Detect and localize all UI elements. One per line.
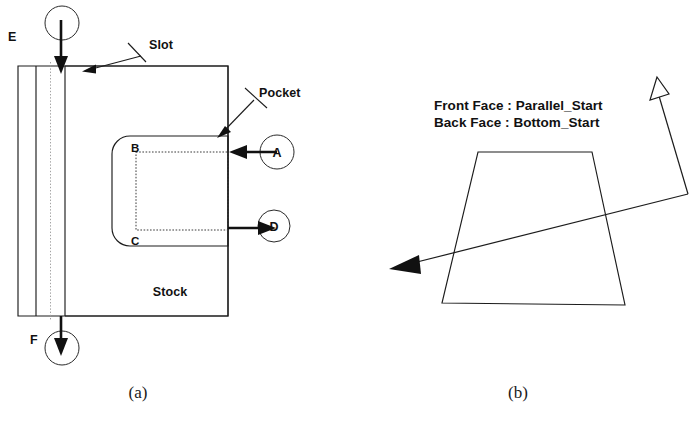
hollow-arrow-head: [650, 77, 669, 100]
diagonal-arrow-shaft: [409, 194, 688, 264]
stock-label: Stock: [153, 285, 188, 299]
stock-outline: [18, 66, 228, 316]
slot-callout-label: Slot: [149, 38, 174, 52]
balloon-a-label: A: [272, 146, 281, 160]
diagonal-arrow-head: [389, 255, 421, 274]
panel-b-caption: (b): [508, 383, 528, 402]
pocket-corner-b-label: B: [131, 142, 139, 154]
stock-right-body: [65, 66, 228, 316]
pocket-corner-c-label: C: [131, 235, 139, 247]
balloon-e-label: E: [8, 30, 16, 44]
balloon-a-arrowhead: [229, 145, 247, 159]
balloon-f-arrowhead: [54, 338, 68, 356]
panel-a: A D E F Slot Pocket B C Stock (a): [8, 6, 301, 402]
panel-b: Front Face : Parallel_Start Back Face : …: [389, 77, 688, 402]
pocket-hidden-floor: [136, 152, 228, 230]
figure-canvas: A D E F Slot Pocket B C Stock (a): [0, 0, 697, 435]
balloon-f-label: F: [30, 333, 38, 347]
balloon-d-label: D: [269, 220, 278, 234]
pocket-callout-label: Pocket: [259, 86, 301, 100]
figure-root: A D E F Slot Pocket B C Stock (a): [0, 0, 697, 435]
trapezoid-face: [442, 152, 625, 305]
hollow-arrow-shaft: [659, 96, 688, 194]
back-face-text: Back Face : Bottom_Start: [434, 115, 600, 130]
balloon-e-arrowhead: [54, 56, 68, 74]
panel-a-caption: (a): [129, 383, 148, 402]
front-face-text: Front Face : Parallel_Start: [434, 98, 603, 113]
